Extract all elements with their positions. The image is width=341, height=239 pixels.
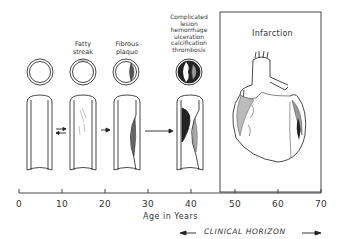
vessel-complicated-lesion bbox=[177, 95, 203, 170]
cross-section-fibrous-plaque bbox=[113, 59, 139, 85]
cross-section-fatty-streak bbox=[70, 59, 96, 85]
tick-label-30: 30 bbox=[142, 199, 154, 209]
infarction-title: Infarction bbox=[252, 29, 293, 38]
arrow-normal-to-fatty-reversible bbox=[56, 128, 66, 135]
vessel-fatty-streak bbox=[70, 95, 96, 170]
tick-label-10: 10 bbox=[56, 199, 68, 209]
cross-section-complicated-lesion bbox=[176, 59, 202, 85]
arrow-fibrous-to-complicated bbox=[145, 129, 173, 133]
tick-label-20: 20 bbox=[99, 199, 111, 209]
label-fibrous-plaque: Fibrous plaque bbox=[112, 41, 142, 56]
tick-label-60: 60 bbox=[272, 199, 284, 209]
clinical-horizon: CLINICAL HORIZON bbox=[178, 227, 323, 239]
tick-label-70: 70 bbox=[315, 199, 327, 209]
cross-section-normal bbox=[27, 59, 53, 85]
label-complicated-lesion: Complicated lesion hemorrhage ulceration… bbox=[166, 14, 212, 54]
tick-label-0: 0 bbox=[16, 199, 22, 209]
label-complicated-line6: thrombosis bbox=[166, 47, 212, 54]
arrow-fatty-to-fibrous bbox=[101, 128, 110, 132]
label-fatty-streak: Fatty streak bbox=[70, 41, 96, 56]
label-fibrous-line2: plaque bbox=[112, 49, 142, 57]
label-fatty-line2: streak bbox=[70, 49, 96, 57]
vessel-fibrous-plaque bbox=[114, 95, 140, 170]
tick-label-40: 40 bbox=[185, 199, 197, 209]
heart-illustration bbox=[233, 51, 306, 162]
vessel-normal bbox=[27, 95, 52, 170]
tick-label-50: 50 bbox=[229, 199, 241, 209]
clinical-horizon-label: CLINICAL HORIZON bbox=[204, 227, 286, 236]
infarction-box bbox=[220, 12, 321, 192]
axis-title: Age in Years bbox=[143, 212, 198, 221]
